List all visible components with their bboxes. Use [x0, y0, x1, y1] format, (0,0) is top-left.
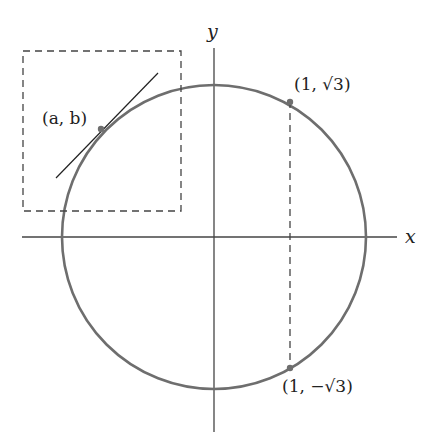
label-bottom: (1, −√3)	[282, 376, 353, 396]
y-axis-label: y	[207, 20, 218, 42]
diagram: y x (a, b) (1, √3) (1, −√3)	[0, 0, 447, 438]
label-ab: (a, b)	[42, 108, 87, 128]
label-top: (1, √3)	[294, 74, 351, 94]
point-ab	[98, 126, 104, 132]
x-axis-label: x	[405, 225, 416, 247]
diagram-canvas	[0, 0, 447, 438]
point-top	[287, 99, 293, 105]
point-bottom	[287, 365, 293, 371]
